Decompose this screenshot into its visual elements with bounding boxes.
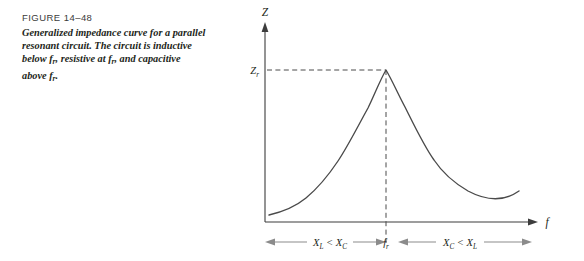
- figure-page: FIGURE 14–48 Generalized impedance curve…: [0, 0, 584, 261]
- caption-line-3-pre: below: [22, 53, 49, 64]
- impedance-curve-path: [269, 70, 519, 215]
- y-axis-label: Z: [262, 6, 269, 18]
- caption-line-3: below fr, resistive at fr, and capacitiv…: [22, 53, 181, 64]
- range-left-label: XL < XC: [312, 237, 347, 251]
- impedance-curve-svg: Z f Zr XL < XC fr: [240, 0, 584, 261]
- range-left-bracket: XL < XC: [265, 237, 386, 251]
- y-axis: [262, 22, 269, 222]
- caption-line-3-post: , and capacitive: [114, 53, 180, 64]
- caption-line-3-mid: , resistive at: [56, 53, 109, 64]
- range-right-second-sub: L: [472, 243, 477, 251]
- impedance-curve-figure: Z f Zr XL < XC fr: [240, 0, 584, 261]
- zr-tick-sub: r: [256, 71, 259, 79]
- range-right-arrowhead-end: [522, 239, 532, 246]
- figure-caption-text: Generalized impedance curve for a parall…: [22, 26, 222, 85]
- range-right-bracket: XC < XL: [398, 237, 532, 251]
- x-axis: [265, 219, 538, 226]
- caption-line-4-post: .: [56, 70, 59, 81]
- caption-line-2: resonant circuit. The circuit is inducti…: [22, 40, 192, 51]
- x-axis-arrowhead: [528, 219, 538, 226]
- caption-line-4: above fr.: [22, 70, 58, 81]
- range-right-label: XC < XL: [442, 237, 477, 251]
- caption-line-4-pre: above: [22, 70, 49, 81]
- caption-line-1: Generalized impedance curve for a parall…: [22, 27, 205, 38]
- fr-axis-sub: r: [386, 243, 389, 251]
- figure-number-label: FIGURE 14–48: [22, 12, 222, 24]
- range-left-second-sub: C: [342, 243, 347, 251]
- range-right-operator: <: [454, 237, 466, 248]
- range-left-operator: <: [323, 237, 335, 248]
- range-left-arrowhead-start: [265, 239, 275, 246]
- figure-caption-block: FIGURE 14–48 Generalized impedance curve…: [22, 12, 222, 85]
- zr-tick-label: Zr: [250, 65, 259, 79]
- y-axis-arrowhead: [262, 22, 269, 32]
- x-axis-label: f: [545, 216, 550, 229]
